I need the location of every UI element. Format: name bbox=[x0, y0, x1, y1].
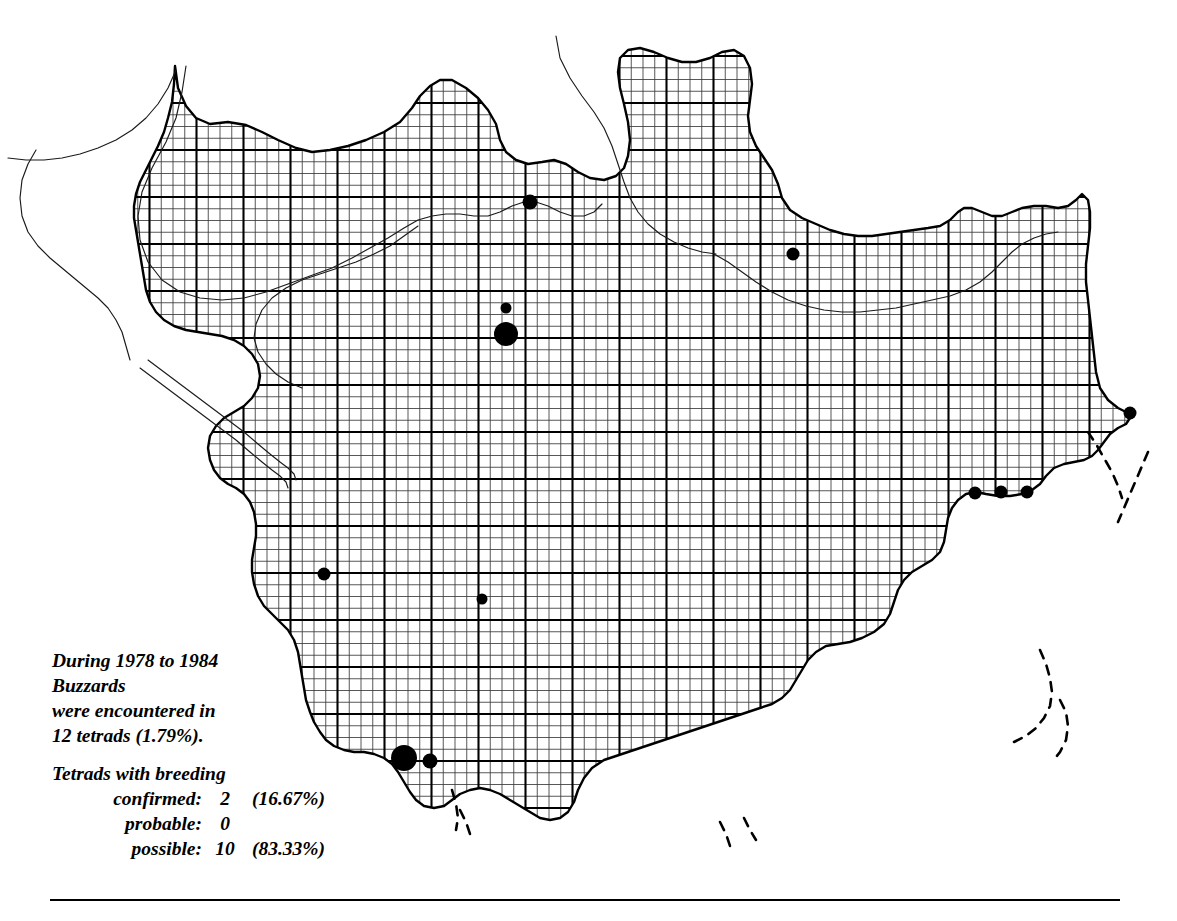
breeding-row-confirmed: confirmed: 2 (16.67%) bbox=[52, 786, 382, 811]
record-dot-possible bbox=[787, 248, 800, 261]
caption-line-3: were encountered in bbox=[52, 698, 382, 723]
record-dot-possible bbox=[969, 487, 982, 500]
record-dot-layer bbox=[318, 195, 1137, 772]
footer-rule bbox=[50, 899, 1120, 901]
breeding-count-confirmed: 2 bbox=[208, 786, 242, 811]
record-dot-confirmed bbox=[494, 322, 518, 346]
dashed-south-mid bbox=[1118, 452, 1148, 522]
dashed-south-sw bbox=[460, 810, 470, 834]
breeding-percent-confirmed: (16.67%) bbox=[242, 786, 325, 811]
map-caption: During 1978 to 1984 Buzzards were encoun… bbox=[52, 648, 382, 861]
breeding-count-possible: 10 bbox=[208, 836, 242, 861]
river-north-branch bbox=[556, 36, 716, 254]
dashed-boundary bbox=[452, 432, 1148, 846]
record-dot-confirmed bbox=[391, 745, 417, 771]
dashed-south-east bbox=[1014, 650, 1052, 742]
breeding-count-probable: 0 bbox=[208, 811, 242, 836]
dashed-south-se2 bbox=[1052, 700, 1068, 762]
river-north bbox=[138, 66, 602, 300]
breeding-row-probable: probable: 0 bbox=[52, 811, 382, 836]
dashed-se-low bbox=[720, 822, 730, 846]
breeding-percent-possible: (83.33%) bbox=[242, 836, 325, 861]
record-dot-possible bbox=[501, 303, 512, 314]
river-nw-upper bbox=[8, 70, 176, 160]
breeding-row-possible: possible: 10 (83.33%) bbox=[52, 836, 382, 861]
caption-line-4: 12 tetrads (1.79%). bbox=[52, 723, 382, 748]
dashed-se-low2 bbox=[744, 818, 756, 840]
record-dot-possible bbox=[1021, 486, 1034, 499]
breeding-label-possible: possible: bbox=[52, 836, 208, 861]
caption-line-1: During 1978 to 1984 bbox=[52, 648, 382, 673]
breeding-label-probable: probable: bbox=[52, 811, 208, 836]
record-dot-possible bbox=[423, 754, 438, 769]
caption-line-2: Buzzards bbox=[52, 673, 382, 698]
breeding-label-confirmed: confirmed: bbox=[52, 786, 208, 811]
record-dot-possible bbox=[477, 594, 488, 605]
breeding-heading: Tetrads with breeding bbox=[52, 761, 382, 786]
record-dot-possible bbox=[1124, 407, 1137, 420]
coast-outer-nw bbox=[20, 150, 130, 360]
record-dot-possible bbox=[523, 195, 538, 210]
record-dot-possible bbox=[995, 486, 1008, 499]
record-dot-possible bbox=[318, 568, 331, 581]
